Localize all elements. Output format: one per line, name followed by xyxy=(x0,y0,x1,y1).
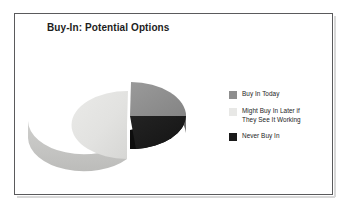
slice-top-buy-in-today xyxy=(130,82,186,116)
chart-legend: Buy In Today Might Buy In Later if They … xyxy=(229,90,329,149)
legend-item-buy-in-today[interactable]: Buy In Today xyxy=(229,90,329,99)
slice-top-might-buy-in-later xyxy=(71,91,128,159)
slice-top-never-buy-in xyxy=(130,116,186,149)
legend-label-never-buy-in: Never Buy In xyxy=(242,132,280,141)
pie-chart-svg xyxy=(24,55,204,185)
pie-chart xyxy=(24,55,204,185)
legend-swatch-never-buy-in xyxy=(229,133,237,141)
legend-label-buy-in-today: Buy In Today xyxy=(242,90,279,99)
legend-label-might-buy-in-later: Might Buy In Later if They See It Workin… xyxy=(242,107,301,124)
page-title: Buy-In: Potential Options xyxy=(47,22,170,33)
legend-swatch-buy-in-today xyxy=(229,91,237,99)
legend-item-never-buy-in[interactable]: Never Buy In xyxy=(229,132,329,141)
slide-shadow-bottom xyxy=(17,196,335,198)
slide-shadow-right xyxy=(334,16,336,197)
screenshot-canvas: Buy-In: Potential Options xyxy=(0,0,350,211)
legend-swatch-might-buy-in-later xyxy=(229,108,237,116)
legend-item-might-buy-in-later[interactable]: Might Buy In Later if They See It Workin… xyxy=(229,107,329,124)
